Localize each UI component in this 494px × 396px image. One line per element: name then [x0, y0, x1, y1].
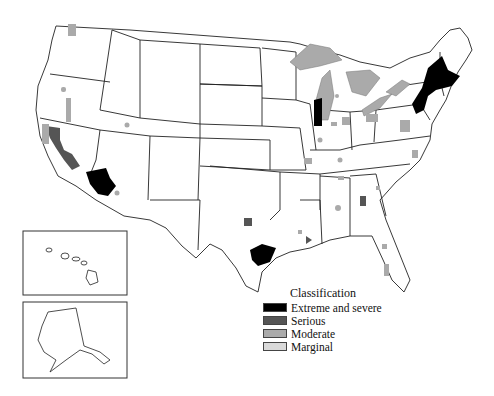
legend-item-marginal: Marginal — [263, 340, 382, 353]
legend-title: Classification — [290, 286, 382, 300]
legend-label: Extreme and severe — [291, 301, 382, 315]
legend-swatch — [263, 316, 287, 325]
legend-item-extreme-severe: Extreme and severe — [263, 301, 382, 314]
legend: Classification Extreme and severe Seriou… — [263, 286, 382, 353]
legend-item-serious: Serious — [263, 314, 382, 327]
legend-label: Marginal — [291, 340, 333, 354]
legend-label: Moderate — [291, 327, 335, 341]
us-map — [0, 0, 494, 396]
legend-swatch — [263, 329, 287, 338]
legend-swatch — [263, 303, 287, 312]
hawaii-inset — [23, 231, 127, 295]
legend-swatch — [263, 342, 287, 351]
legend-label: Serious — [291, 314, 326, 328]
legend-item-moderate: Moderate — [263, 327, 382, 340]
alaska-inset — [23, 302, 127, 378]
great-lakes — [290, 44, 410, 120]
